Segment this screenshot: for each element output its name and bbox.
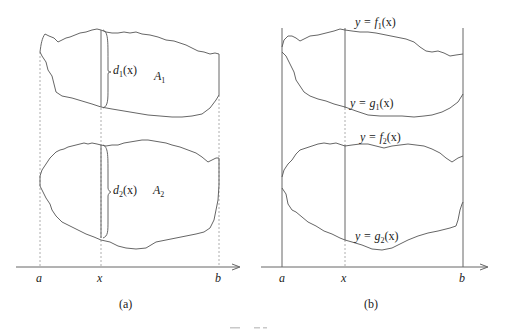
caption-a: (a) bbox=[119, 297, 132, 311]
tick-label-x: x bbox=[340, 271, 347, 285]
tick-label-x: x bbox=[96, 271, 103, 285]
tick-label-a: a bbox=[279, 271, 285, 285]
curve-f2 bbox=[282, 143, 463, 177]
label-a2: A2 bbox=[152, 183, 164, 199]
caption-b: (b) bbox=[364, 297, 378, 311]
figure-canvas: d1(x) A1 d2(x) A2 a x b (a) y = f1(x) y … bbox=[0, 0, 506, 330]
label-a1: A1 bbox=[153, 69, 165, 85]
label-f1: y = f1(x) bbox=[354, 15, 396, 31]
brace-d2 bbox=[103, 145, 111, 238]
tick-label-a: a bbox=[36, 271, 42, 285]
label-g2: y = g2(x) bbox=[354, 229, 398, 245]
label-g1: y = g1(x) bbox=[349, 96, 393, 112]
figure-caption-fragment bbox=[230, 327, 267, 329]
label-f2: y = f2(x) bbox=[359, 130, 401, 146]
curve-f1 bbox=[282, 29, 463, 56]
panel-b: y = f1(x) y = g1(x) y = f2(x) y = g2(x) … bbox=[261, 15, 488, 311]
brace-d1 bbox=[103, 30, 111, 108]
label-d1: d1(x) bbox=[113, 63, 137, 79]
panel-a: d1(x) A1 d2(x) A2 a x b (a) bbox=[16, 29, 240, 311]
tick-label-b: b bbox=[215, 271, 221, 285]
label-d2: d2(x) bbox=[113, 183, 137, 199]
tick-label-b: b bbox=[459, 271, 465, 285]
